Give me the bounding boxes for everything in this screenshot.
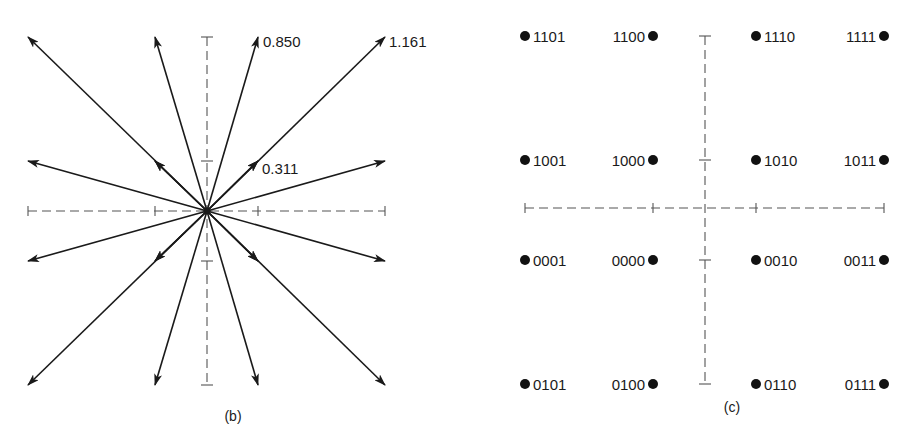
figure-c-caption: (c)	[724, 399, 740, 415]
constellation-point	[648, 155, 658, 165]
figure-canvas: 0.850 1.161 0.311 (b) 110111001110111110…	[0, 0, 916, 447]
constellation-point-label: 0010	[764, 252, 797, 269]
constellation-point-label: 0011	[844, 252, 876, 269]
figure-b-amplitude-labels: 0.850 1.161 0.311	[262, 33, 427, 177]
origin-point	[204, 208, 211, 215]
figure-c-axes	[525, 36, 884, 384]
figure-c-constellation: 1101110011101111100110001010101100010000…	[520, 28, 889, 416]
constellation-point-label: 1100	[613, 28, 645, 45]
constellation-point	[879, 31, 889, 41]
constellation-point	[879, 255, 889, 265]
constellation-point-label: 0000	[612, 252, 645, 269]
constellation-point-label: 1010	[764, 152, 797, 169]
constellation-point	[648, 379, 658, 389]
constellation-point-label: 0100	[612, 376, 645, 393]
constellation-point	[648, 255, 658, 265]
constellation-point	[520, 31, 530, 41]
constellation-point-label: 0110	[764, 376, 796, 393]
constellation-point-label: 1000	[612, 152, 645, 169]
constellation-point-label: 1011	[844, 152, 876, 169]
constellation-point-label: 1101	[533, 28, 565, 45]
constellation-point	[520, 379, 530, 389]
figure-b-vector-diagram: 0.850 1.161 0.311 (b)	[28, 33, 427, 424]
constellation-point	[648, 31, 658, 41]
constellation-point	[520, 155, 530, 165]
constellation-point	[751, 379, 761, 389]
constellation-point	[751, 31, 761, 41]
constellation-point-label: 1001	[533, 152, 566, 169]
constellation-point	[751, 155, 761, 165]
figure-b-caption: (b)	[224, 408, 241, 424]
amplitude-label: 0.850	[263, 33, 301, 50]
constellation-point-label: 0111	[845, 376, 876, 393]
amplitude-label: 1.161	[389, 33, 427, 50]
constellation-point-label: 1110	[764, 28, 795, 45]
constellation-point-label: 0101	[533, 376, 566, 393]
constellation-point	[751, 255, 761, 265]
constellation-point	[879, 379, 889, 389]
constellation-point-label: 0001	[533, 252, 566, 269]
constellation-point	[520, 255, 530, 265]
constellation-point	[879, 155, 889, 165]
constellation-point-label: 1111	[846, 28, 876, 45]
amplitude-label: 0.311	[262, 160, 298, 177]
